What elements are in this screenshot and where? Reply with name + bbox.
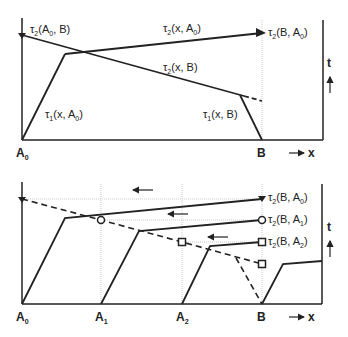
circle-marker-A1 [98, 217, 105, 224]
label-tau2-B-A1: τ2(B, A1) [268, 213, 308, 227]
label-tau2-x-B: τ2(x, B) [163, 61, 198, 75]
tau2-x-B-dashed [244, 96, 262, 101]
path-from-B [262, 261, 322, 304]
axis-label-x: x [308, 146, 315, 160]
axis-label-B: B [257, 146, 266, 160]
label-tau2-A0-B: τ2(A0, B) [30, 23, 70, 37]
tau2-x-A0-line [65, 33, 262, 54]
axis-label-A2: A2 [176, 310, 189, 325]
label-tau1-x-B: τ1(x, B) [203, 108, 238, 122]
axis-label-A0: A0 [16, 310, 29, 325]
right-arrow-head-icon [256, 28, 266, 37]
label-tau2-x-A0: τ2(x, A0) [163, 22, 201, 36]
label-tau1-x-A0: τ1(x, A0) [45, 108, 83, 122]
axis-label-A1: A1 [95, 310, 108, 325]
square-marker-B [259, 239, 266, 246]
diagram: τ2(A0, B) τ2(x, A0) τ2(B, A0) τ2(x, B) τ… [0, 0, 348, 337]
bottom-panel: τ2(B, A0) τ2(B, A1) τ2(B, A2) A0 A1 A2 B… [16, 182, 331, 325]
tau1-x-A0-line [22, 54, 65, 140]
axis-label-t: t [327, 220, 331, 234]
square-marker-A2 [179, 239, 186, 246]
axis-label-A0: A0 [16, 146, 29, 161]
tau1-x-B-line [240, 95, 262, 140]
circle-marker-B [259, 217, 266, 224]
top-panel: τ2(A0, B) τ2(x, A0) τ2(B, A0) τ2(x, B) τ… [16, 18, 331, 161]
square-marker-B-low [259, 261, 266, 268]
label-tau2-B-A0: τ2(B, A0) [268, 191, 308, 205]
path-from-A0 [22, 199, 262, 304]
axis-label-t: t [327, 56, 331, 70]
axis-label-x: x [308, 310, 315, 324]
axis-label-B: B [257, 310, 266, 324]
label-tau2-B-A2: τ2(B, A2) [268, 235, 308, 249]
tau2-x-B-line [22, 35, 244, 96]
path-from-A2 [182, 242, 262, 304]
label-tau2-B-A0: τ2(B, A0) [268, 26, 308, 40]
